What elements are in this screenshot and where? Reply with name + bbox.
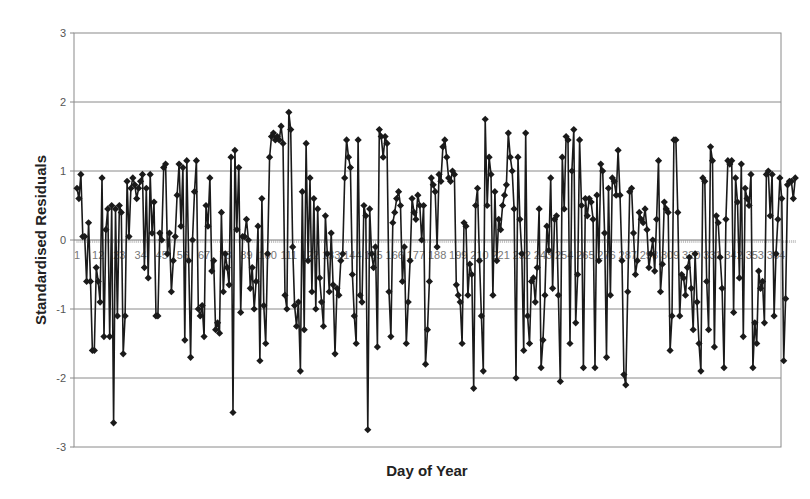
x-tick-label: 67 — [198, 249, 210, 261]
y-tick-label: 1 — [60, 165, 66, 177]
x-tick-label: 1 — [74, 249, 80, 261]
x-tick-label: 309 — [661, 249, 679, 261]
y-tick-label: 2 — [60, 96, 66, 108]
residuals-chart: 3210-1-2-3 11223344556677889100111122133… — [0, 0, 810, 499]
y-tick-label: -1 — [56, 303, 66, 315]
y-tick-label: -3 — [56, 441, 66, 453]
y-axis-title: Standardised Residuals — [32, 155, 49, 325]
y-tick-label: -2 — [56, 372, 66, 384]
x-axis-title: Day of Year — [386, 462, 468, 479]
x-tick-label: 111 — [280, 249, 297, 261]
x-tick-label: 353 — [746, 249, 764, 261]
x-tick-label: 320 — [682, 249, 700, 261]
y-tick-label: 3 — [60, 27, 66, 39]
y-axis-ticks: 3210-1-2-3 — [56, 27, 74, 453]
diamond-marker — [790, 195, 797, 202]
x-tick-label: 199 — [449, 249, 467, 261]
y-tick-label: 0 — [60, 234, 66, 246]
